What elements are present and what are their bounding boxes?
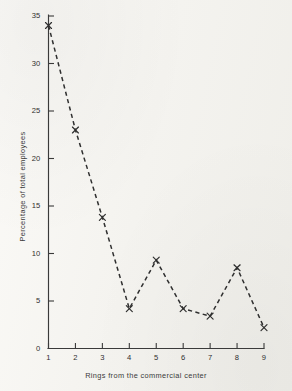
x-axis-tick-label: 5 (149, 353, 163, 362)
x-axis-tick-label: 2 (68, 353, 82, 362)
line-chart-plot (0, 0, 292, 391)
chart-axes (48, 15, 264, 349)
x-axis-tick-label: 3 (95, 353, 109, 362)
y-axis-ticks (49, 16, 55, 301)
x-axis-tick-label: 6 (176, 353, 190, 362)
chart-figure: 05101520253035 123456789 Percentage of t… (0, 0, 292, 391)
x-axis-tick-label: 1 (42, 353, 56, 362)
y-axis-tick-label: 5 (19, 296, 41, 305)
x-axis-tick-label: 8 (230, 353, 244, 362)
x-axis-title: Rings from the commercial center (0, 371, 292, 380)
y-axis-tick-label: 30 (19, 59, 41, 68)
data-point-markers (46, 23, 268, 331)
x-axis-ticks (49, 343, 265, 349)
y-axis-title: Percentage of total employees (18, 87, 27, 287)
y-axis-tick-label: 0 (19, 344, 41, 353)
y-axis-tick-label: 35 (19, 11, 41, 20)
x-axis-tick-label: 4 (122, 353, 136, 362)
data-line-series (49, 26, 265, 328)
x-axis-tick-label: 9 (257, 353, 271, 362)
x-axis-tick-label: 7 (203, 353, 217, 362)
